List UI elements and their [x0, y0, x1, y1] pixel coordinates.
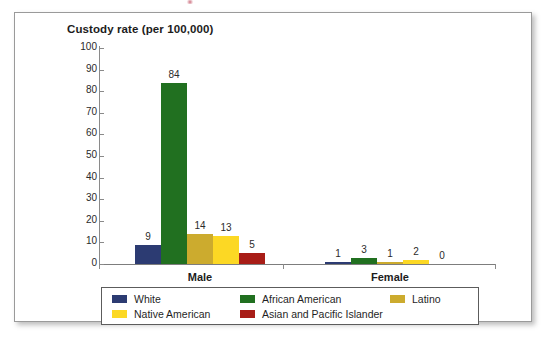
- y-axis-tick-label: 90: [86, 63, 97, 74]
- y-axis-tick-label: 0: [91, 257, 97, 268]
- bar: [325, 262, 351, 264]
- y-axis-tick-label: 10: [86, 235, 97, 246]
- bar: [187, 234, 213, 264]
- y-axis-tick-label: 20: [86, 214, 97, 225]
- y-axis-tick-label: 50: [86, 149, 97, 160]
- legend-item[interactable]: Asian and Pacific Islander: [240, 308, 383, 320]
- legend-label: Latino: [412, 293, 441, 305]
- y-axis-tick-label: 40: [86, 171, 97, 182]
- legend-swatch-icon: [240, 310, 255, 318]
- legend-swatch-icon: [112, 310, 127, 318]
- legend-item[interactable]: Latino: [390, 293, 441, 305]
- chart-legend: WhiteAfrican AmericanLatinoNative Americ…: [101, 287, 479, 325]
- chart-title: Custody rate (per 100,000): [67, 23, 213, 35]
- y-axis-tick-label: 70: [86, 106, 97, 117]
- legend-swatch-icon: [390, 295, 405, 303]
- legend-label: White: [134, 293, 161, 305]
- legend-item[interactable]: African American: [240, 293, 341, 305]
- y-axis-tick-label: 30: [86, 192, 97, 203]
- category-label-female: Female: [350, 271, 430, 283]
- legend-label: African American: [262, 293, 341, 305]
- y-axis-tick-label: 100: [80, 41, 97, 52]
- bar-value-label: 5: [233, 239, 271, 250]
- bar: [135, 245, 161, 264]
- legend-item[interactable]: White: [112, 293, 161, 305]
- bar: [161, 83, 187, 264]
- bar-value-label: 13: [207, 222, 245, 233]
- bar-value-label: 0: [423, 250, 461, 261]
- legend-label: Asian and Pacific Islander: [262, 308, 383, 320]
- chart-frame: Custody rate (per 100,000) 1009080706050…: [14, 12, 532, 322]
- category-label-male: Male: [160, 271, 240, 283]
- x-axis-line: [99, 264, 495, 265]
- plot-area: 9841413513120: [99, 48, 497, 264]
- y-axis-tick-label: 80: [86, 84, 97, 95]
- y-axis-tick-mark: [100, 264, 104, 265]
- category-separator-tick: [283, 264, 284, 269]
- category-separator-tick: [99, 264, 100, 269]
- legend-swatch-icon: [240, 295, 255, 303]
- bar: [239, 253, 265, 264]
- bar: [377, 262, 403, 264]
- scan-artifact: [186, 0, 194, 4]
- legend-label: Native American: [134, 308, 210, 320]
- legend-swatch-icon: [112, 295, 127, 303]
- bar-value-label: 84: [155, 69, 193, 80]
- y-axis-tick-label: 60: [86, 127, 97, 138]
- legend-item[interactable]: Native American: [112, 308, 210, 320]
- category-separator-tick: [495, 264, 496, 269]
